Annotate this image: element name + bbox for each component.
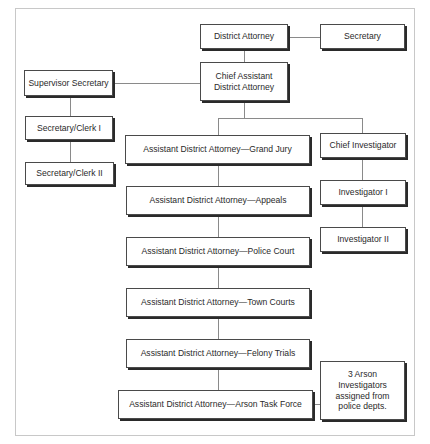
node-secretary-clerk-2: Secretary/Clerk II [25,162,114,185]
node-ada-police-court: Assistant District Attorney—Police Court [126,237,310,266]
node-label: Assistant District Attorney—Arson Task F… [129,399,302,410]
node-label-line2: Investigators [338,380,387,391]
node-label: Assistant District Attorney—Police Court [142,246,295,257]
node-arson-investigators: 3 Arson Investigators assigned from poli… [320,361,405,420]
node-ada-appeals: Assistant District Attorney—Appeals [126,186,310,215]
node-ada-grand-jury: Assistant District Attorney—Grand Jury [125,135,310,164]
node-ada-arson-task-force: Assistant District Attorney—Arson Task F… [118,390,313,419]
node-chief-investigator: Chief Investigator [320,133,406,158]
node-label: Chief Investigator [330,140,397,151]
node-label: District Attorney [214,31,274,42]
node-label-line1: 3 Arson [348,369,377,380]
connector-da-chief [244,49,245,62]
connector-bar-chiefinv [362,118,363,133]
node-label: Assistant District Attorney—Town Courts [141,297,295,308]
node-label-line2: District Attorney [214,82,274,93]
node-label: Supervisor Secretary [28,78,108,89]
connector-clerk1-clerk2 [70,140,71,162]
node-district-attorney: District Attorney [200,24,288,49]
connector-da-secretary [288,37,320,38]
node-secretary-clerk-1: Secretary/Clerk I [25,116,113,140]
connector-chief-supervisor [113,83,200,84]
node-label: Secretary [344,31,381,42]
connector-arson-investigators [313,404,320,405]
connector-branch-bar [218,118,363,119]
node-label: Assistant District Attorney—Grand Jury [143,144,292,155]
connector-chief-down [244,101,245,118]
node-label: Investigator II [337,234,389,245]
node-chief-assistant-da: Chief Assistant District Attorney [200,62,288,101]
node-ada-felony-trials: Assistant District Attorney—Felony Trial… [126,339,310,368]
node-label: Secretary/Clerk I [37,123,101,134]
node-secretary: Secretary [320,24,405,49]
node-label: Assistant District Attorney—Appeals [149,195,286,206]
node-label-line3: assigned from [336,391,390,402]
node-label-line4: police depts. [338,401,386,412]
node-ada-town-courts: Assistant District Attorney—Town Courts [126,288,310,317]
connector-supervisor-clerk1 [70,96,71,116]
node-label: Assistant District Attorney—Felony Trial… [141,348,296,359]
node-supervisor-secretary: Supervisor Secretary [24,70,113,96]
node-investigator-1: Investigator I [320,180,406,205]
node-label: Secretary/Clerk II [36,168,102,179]
node-label: Investigator I [338,187,387,198]
connector-bar-grandjury [218,118,219,135]
node-investigator-2: Investigator II [320,227,406,252]
node-label-line1: Chief Assistant [216,71,273,82]
